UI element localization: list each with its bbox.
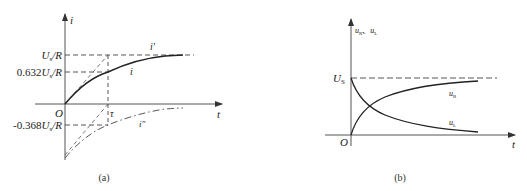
tangent-i-double-prime	[65, 104, 108, 155]
origin-label-a: O	[55, 107, 63, 119]
y-axis-label-a: i	[70, 14, 73, 26]
panel-a: i t O τ Us/R 0.632Us/R -0.368Us/R i' i i…	[13, 14, 222, 184]
curve-i-double-prime	[65, 108, 183, 158]
curve-u-r	[351, 81, 478, 135]
caption-a: (a)	[98, 172, 109, 184]
y-axis-label-b: uR、uL	[355, 26, 377, 36]
panel-b: uR、uL US uR uL t O (b)	[325, 19, 516, 184]
x-axis-label-b: t	[512, 138, 516, 150]
curve-label-i-double-prime: i"	[139, 119, 146, 129]
caption-b: (b)	[394, 172, 406, 184]
curve-label-i-prime: i'	[150, 41, 156, 52]
diagram-canvas: i t O τ Us/R 0.632Us/R -0.368Us/R i' i i…	[0, 0, 527, 191]
curve-label-u-r: uR	[449, 89, 457, 99]
tick-0632-us-r: 0.632Us/R	[17, 66, 62, 80]
curve-i	[65, 55, 183, 104]
tick-us-r: Us/R	[42, 49, 63, 63]
x-axis-label-a: t	[217, 108, 221, 120]
tau-label: τ	[110, 108, 114, 119]
curve-label-i: i	[130, 66, 133, 77]
origin-label-b: O	[340, 136, 348, 148]
curve-label-u-l: uL	[449, 118, 456, 128]
tick-neg0368-us-r: -0.368Us/R	[13, 119, 62, 133]
level-label-us: US	[333, 72, 345, 86]
